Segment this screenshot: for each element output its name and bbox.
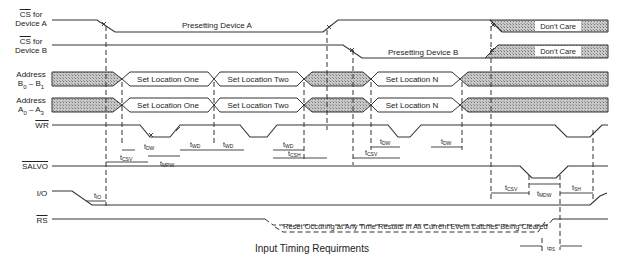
t-wd-label: tWD [190,141,201,149]
set-location-one-text: Set Location One [137,75,199,84]
set-location-n-text: Set Location N [386,101,439,110]
waveform-salvo [52,166,608,178]
t-wd-label: tWD [223,141,234,149]
timing-dimensions: tCSV tDW tMPW tWD tWD tWD tCSH tCSV tDW [86,138,593,252]
t-wd-label: tWD [283,141,294,149]
waveform-cs-device-b: Presetting Device B Don't Care [52,45,608,58]
set-location-n-text: Set Location N [386,75,439,84]
t-mdw-label: tMDW [537,190,552,198]
waveform-address-b: Set Location One Set Location Two Set Lo… [52,72,608,86]
reference-lines [106,26,593,252]
t-rs-label: tRS [547,245,555,252]
t-csv-label: tCSV [365,149,378,157]
diagram-caption: Input Timing Requirments [255,243,369,254]
t-sh-label: tSH [572,184,581,192]
waveform-cs-device-a: Presetting Device A Don't Care [52,20,608,32]
set-location-two-text: Set Location Two [227,101,289,110]
t-dw-label: tDW [441,138,452,146]
presetting-device-b-text: Presetting Device B [388,48,458,57]
waveform-address-a: Set Location One Set Location Two Set Lo… [52,98,608,112]
presetting-device-a-text: Presetting Device A [182,21,252,30]
set-location-one-text: Set Location One [137,101,199,110]
timing-diagram: CS for Device A CS for Device B Address … [0,0,620,268]
t-dw-label: tDW [144,143,155,151]
waveform-rs: Reset Occuring at Any Time Results In Al… [52,219,608,232]
dont-care-b-text: Don't Care [540,47,576,56]
dont-care-a-text: Don't Care [540,22,576,31]
t-dw-label: tDW [380,138,391,146]
t-csv-label: tCSV [120,154,133,162]
set-location-two-text: Set Location Two [227,75,289,84]
t-mpw-label: tMPW [160,160,174,168]
waveform-canvas: Presetting Device A Don't Care Presettin… [0,0,620,268]
t-io-label: tIO [94,192,101,200]
t-csh-label: tCSH [288,150,301,158]
t-csv-label: tCSV [505,184,518,192]
reset-note-text: Reset Occuring at Any Time Results In Al… [283,222,548,231]
waveform-wr [52,125,608,137]
